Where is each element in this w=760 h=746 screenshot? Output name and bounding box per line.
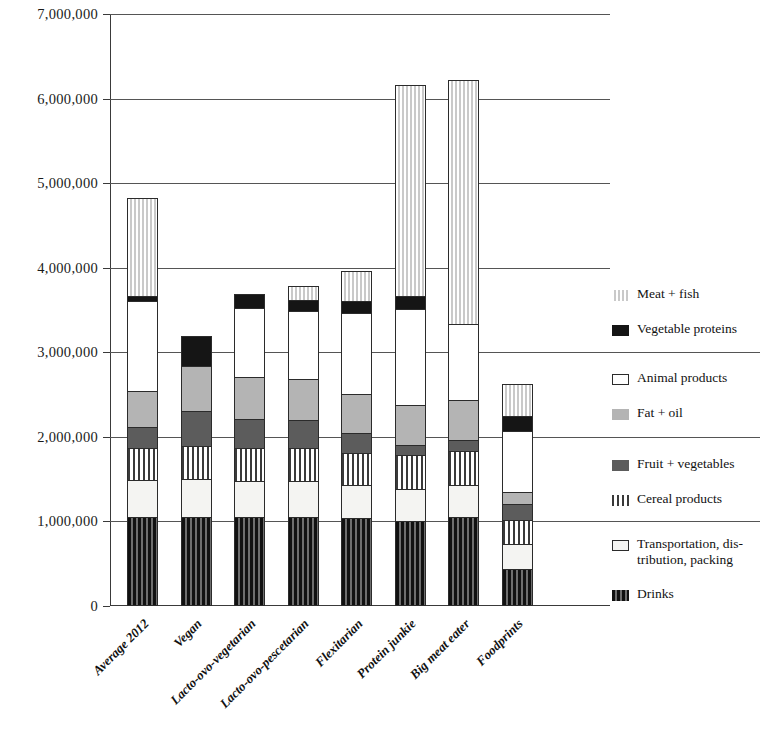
animal-products-swatch (612, 374, 629, 385)
bar-lacto-ovo-vegetarian[interactable] (234, 294, 265, 606)
x-axis-label-flexitarian: Flexitarian (312, 616, 366, 670)
y-axis-tick (103, 521, 110, 522)
bar-segment-fruit[interactable] (449, 440, 478, 451)
bar-segment-drinks[interactable] (128, 517, 157, 605)
bar-lacto-ovo-pescetarian[interactable] (288, 286, 319, 606)
y-axis-tick-label: 3,000,000 (37, 344, 98, 361)
bar-segment-transport[interactable] (182, 479, 211, 517)
bar-segment-transport[interactable] (396, 489, 425, 521)
bar-segment-fruit[interactable] (289, 420, 318, 448)
drinks-swatch (612, 590, 629, 601)
bar-segment-animal[interactable] (342, 313, 371, 394)
bar-segment-transport[interactable] (235, 481, 264, 516)
bar-big-meat-eater[interactable] (448, 80, 479, 606)
bar-segment-drinks[interactable] (342, 518, 371, 605)
bar-segment-vegprot[interactable] (503, 416, 532, 431)
legend-group: Meat + fishVegetable proteins (612, 286, 760, 355)
gridline (110, 99, 610, 100)
bar-segment-transport[interactable] (342, 485, 371, 519)
bar-segment-cereal[interactable] (342, 453, 371, 485)
legend-item-fruit[interactable]: Fruit + vegetables (612, 456, 760, 472)
bar-segment-vegprot[interactable] (396, 296, 425, 309)
bar-segment-drinks[interactable] (289, 517, 318, 605)
bar-segment-fat[interactable] (503, 492, 532, 505)
bar-segment-fat[interactable] (449, 400, 478, 440)
bar-segment-animal[interactable] (449, 324, 478, 400)
bar-segment-animal[interactable] (396, 309, 425, 405)
bar-segment-meat[interactable] (503, 385, 532, 416)
bar-segment-drinks[interactable] (396, 521, 425, 605)
bar-segment-cereal[interactable] (449, 451, 478, 485)
legend-item-fat[interactable]: Fat + oil (612, 405, 760, 421)
bar-segment-meat[interactable] (128, 199, 157, 297)
legend-item-label: Animal products (637, 370, 727, 386)
bar-segment-animal[interactable] (289, 311, 318, 379)
fruit-vegetables-swatch (612, 460, 629, 471)
bar-protein-junkie[interactable] (395, 85, 426, 606)
vegetable-proteins-swatch (612, 325, 629, 336)
bar-segment-meat[interactable] (289, 287, 318, 300)
legend-item-animal[interactable]: Animal products (612, 370, 760, 386)
bar-segment-meat[interactable] (342, 272, 371, 301)
legend-item-label: Fruit + vegetables (637, 456, 735, 472)
bar-segment-drinks[interactable] (235, 517, 264, 605)
plot-area (110, 14, 610, 606)
bar-segment-vegprot[interactable] (235, 295, 264, 308)
bar-segment-vegprot[interactable] (182, 337, 211, 366)
x-axis-label-foodprints: Foodprints (473, 616, 526, 669)
legend-group: Fruit + vegetablesCereal products (612, 456, 760, 525)
legend-item-drinks[interactable]: Drinks (612, 586, 760, 602)
bar-segment-drinks[interactable] (182, 517, 211, 605)
bar-segment-fruit[interactable] (396, 445, 425, 455)
bar-segment-transport[interactable] (289, 481, 318, 516)
bar-segment-cereal[interactable] (396, 455, 425, 489)
bar-average-2012[interactable] (127, 198, 158, 606)
bar-segment-fat[interactable] (182, 366, 211, 411)
bar-segment-fat[interactable] (235, 377, 264, 419)
legend-item-vegprot[interactable]: Vegetable proteins (612, 321, 760, 337)
bar-segment-meat[interactable] (396, 86, 425, 296)
bar-segment-transport[interactable] (449, 485, 478, 517)
bar-segment-drinks[interactable] (503, 569, 532, 605)
legend-item-meat[interactable]: Meat + fish (612, 286, 760, 302)
bar-segment-fat[interactable] (289, 379, 318, 420)
bar-segment-vegprot[interactable] (342, 301, 371, 314)
legend-item-cereal[interactable]: Cereal products (612, 491, 760, 507)
bar-flexitarian[interactable] (341, 271, 372, 606)
y-axis-tick (103, 606, 110, 607)
bar-segment-animal[interactable] (503, 431, 532, 492)
bar-segment-transport[interactable] (128, 480, 157, 516)
y-axis-tick-label: 1,000,000 (37, 513, 98, 530)
bar-segment-fruit[interactable] (235, 419, 264, 448)
bar-segment-fat[interactable] (342, 394, 371, 433)
y-axis-tick (103, 437, 110, 438)
bar-segment-fruit[interactable] (128, 427, 157, 448)
bar-segment-animal[interactable] (235, 308, 264, 377)
bar-foodprints[interactable] (502, 384, 533, 606)
x-axis-label-average-2012: Average 2012 (89, 616, 151, 678)
bar-vegan[interactable] (181, 336, 212, 606)
bar-segment-fat[interactable] (128, 391, 157, 427)
legend-item-label: Transportation, dis- tribution, packing (637, 536, 743, 567)
bar-segment-animal[interactable] (128, 301, 157, 391)
transportation-swatch (612, 540, 629, 551)
y-axis-tick (103, 99, 110, 100)
bar-segment-vegprot[interactable] (289, 300, 318, 311)
bar-segment-fruit[interactable] (182, 411, 211, 446)
chart-legend: Meat + fishVegetable proteinsAnimal prod… (612, 286, 760, 606)
legend-item-transport[interactable]: Transportation, dis- tribution, packing (612, 536, 760, 567)
bar-segment-fruit[interactable] (503, 504, 532, 519)
bar-segment-transport[interactable] (503, 544, 532, 569)
bar-segment-cereal[interactable] (128, 448, 157, 480)
legend-item-label: Vegetable proteins (637, 321, 737, 337)
gridline (110, 268, 610, 269)
bar-segment-meat[interactable] (449, 81, 478, 324)
bar-segment-cereal[interactable] (182, 446, 211, 479)
bar-segment-fruit[interactable] (342, 433, 371, 453)
bar-segment-cereal[interactable] (289, 448, 318, 482)
y-axis-tick-label: 5,000,000 (37, 175, 98, 192)
bar-segment-cereal[interactable] (235, 448, 264, 482)
bar-segment-cereal[interactable] (503, 520, 532, 544)
bar-segment-fat[interactable] (396, 405, 425, 445)
bar-segment-drinks[interactable] (449, 517, 478, 605)
